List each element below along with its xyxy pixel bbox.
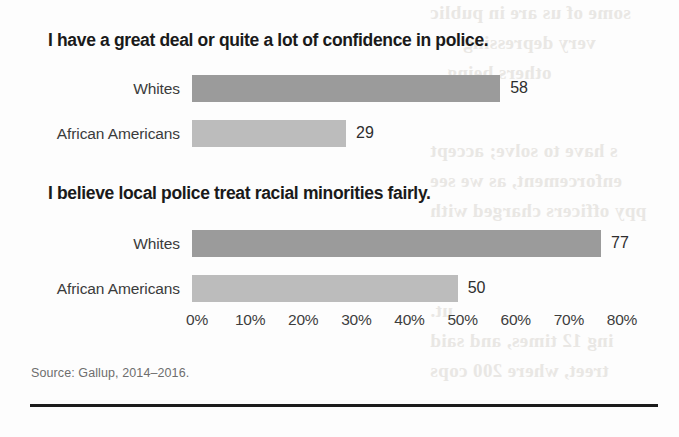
category-label-panel1-whites: Whites (0, 80, 180, 98)
x-tick-40: 40% (387, 311, 433, 329)
bar-panel2-whites (192, 230, 601, 257)
panel-title-confidence-in-police: I have a great deal or quite a lot of co… (48, 30, 488, 51)
value-label-panel1-whites: 58 (510, 79, 528, 97)
category-label-panel1-african-americans: African Americans (0, 125, 180, 143)
x-tick-80: 80% (599, 311, 645, 329)
x-tick-70: 70% (546, 311, 592, 329)
x-tick-0: 0% (174, 311, 220, 329)
source-note: Source: Gallup, 2014–2016. (31, 366, 189, 380)
bar-panel1-whites (192, 75, 500, 102)
bar-chart-figure: some of us are in publicvery depressingo… (0, 0, 679, 437)
value-label-panel1-african-americans: 29 (356, 124, 374, 142)
bar-panel1-african-americans (192, 120, 346, 147)
x-tick-60: 60% (493, 311, 539, 329)
x-tick-30: 30% (333, 311, 379, 329)
x-tick-20: 20% (280, 311, 326, 329)
category-label-panel2-african-americans: African Americans (0, 280, 180, 298)
value-label-panel2-african-americans: 50 (468, 279, 486, 297)
category-label-panel2-whites: Whites (0, 235, 180, 253)
x-tick-10: 10% (227, 311, 273, 329)
bottom-rule-divider (30, 404, 658, 407)
x-tick-50: 50% (440, 311, 486, 329)
bar-panel2-african-americans (192, 275, 458, 302)
value-label-panel2-whites: 77 (611, 234, 629, 252)
panel-title-treat-minorities-fairly: I believe local police treat racial mino… (48, 183, 430, 204)
